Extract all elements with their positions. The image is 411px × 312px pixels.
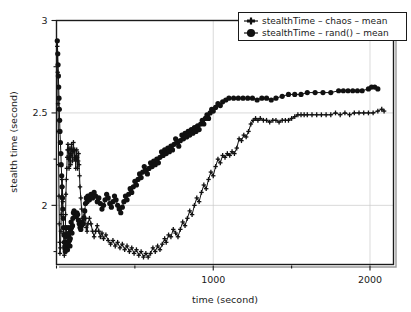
data-point (292, 92, 297, 97)
data-point (124, 197, 129, 202)
data-point (96, 195, 101, 200)
data-point (355, 88, 360, 93)
data-point (320, 90, 325, 95)
data-point (259, 96, 264, 101)
data-point (109, 205, 114, 210)
data-point (298, 92, 303, 97)
legend-entry-rand[interactable]: stealthTime – rand() – mean (244, 28, 389, 38)
legend-entry-chaos[interactable]: stealthTime – chaos – mean (244, 16, 387, 26)
data-point (176, 144, 181, 149)
data-point (345, 88, 350, 93)
data-point (375, 86, 380, 91)
data-point (113, 197, 118, 202)
y-tick-label: 2 (41, 200, 47, 211)
data-point (70, 223, 75, 228)
data-point (240, 96, 245, 101)
data-point (328, 90, 333, 95)
y-tick-label: 2.5 (32, 107, 47, 118)
data-point (336, 88, 341, 93)
data-point (59, 173, 64, 178)
data-point (58, 151, 63, 156)
data-point (57, 118, 62, 123)
data-point (57, 107, 62, 112)
data-point (280, 94, 285, 99)
data-point (55, 62, 60, 67)
data-point (264, 96, 269, 101)
series-rand (55, 38, 381, 254)
x-axis-ticks (57, 266, 370, 271)
data-point (82, 208, 87, 213)
series-line (57, 46, 384, 257)
data-point (156, 160, 161, 165)
data-point (68, 236, 73, 241)
data-point (60, 195, 65, 200)
y-axis-title: stealth time (second) (8, 91, 19, 193)
x-axis-tick-labels: 10002000 (201, 274, 382, 285)
data-point (197, 127, 202, 132)
data-point (350, 88, 355, 93)
data-point (273, 96, 278, 101)
series-chaos (55, 44, 386, 260)
data-point (61, 216, 66, 221)
data-point (313, 90, 318, 95)
data-point (245, 96, 250, 101)
data-point (69, 230, 74, 235)
series-line (57, 41, 378, 252)
data-point (75, 212, 80, 217)
data-point (286, 92, 291, 97)
chart-figure: 22.53 10002000 stealth time (second) tim… (0, 0, 411, 312)
data-point (139, 175, 144, 180)
data-point (60, 206, 65, 211)
data-point (201, 121, 206, 126)
data-point (255, 97, 260, 102)
data-point (56, 73, 61, 78)
data-point (56, 96, 61, 101)
data-point (59, 184, 64, 189)
legend-label-rand: stealthTime – rand() – mean (262, 28, 389, 38)
legend-label-chaos: stealthTime – chaos – mean (262, 16, 387, 26)
data-point (56, 84, 61, 89)
x-tick-label: 2000 (358, 274, 382, 285)
data-point (145, 171, 150, 176)
data-point (55, 51, 60, 56)
data-point (360, 88, 365, 93)
data-point (67, 243, 72, 248)
data-point (59, 162, 64, 167)
chart-canvas: 22.53 10002000 stealth time (second) tim… (0, 0, 411, 312)
x-axis-title: time (second) (192, 294, 258, 305)
data-point (269, 97, 274, 102)
plot-frame-shadow (59, 23, 396, 267)
data-point (305, 90, 310, 95)
data-point (101, 203, 106, 208)
x-tick-label: 1000 (201, 274, 225, 285)
data-point (118, 210, 123, 215)
series-group (55, 38, 387, 259)
data-point (236, 96, 241, 101)
data-point (120, 205, 125, 210)
data-point (57, 129, 62, 134)
data-point (81, 221, 86, 226)
data-point (231, 96, 236, 101)
data-point (250, 96, 255, 101)
vertical-gridlines (213, 21, 370, 265)
data-point (81, 216, 86, 221)
data-point (106, 195, 111, 200)
data-point (206, 116, 211, 121)
data-point (58, 140, 63, 145)
y-tick-label: 3 (41, 15, 47, 26)
legend: stealthTime – chaos – mean stealthTime –… (239, 13, 407, 41)
plot-frame (57, 21, 394, 265)
data-point (55, 38, 60, 43)
data-point (170, 147, 175, 152)
data-point (129, 190, 134, 195)
data-point (226, 96, 231, 101)
data-point (134, 182, 139, 187)
data-point (341, 88, 346, 93)
y-axis-tick-labels: 22.53 (32, 15, 47, 211)
